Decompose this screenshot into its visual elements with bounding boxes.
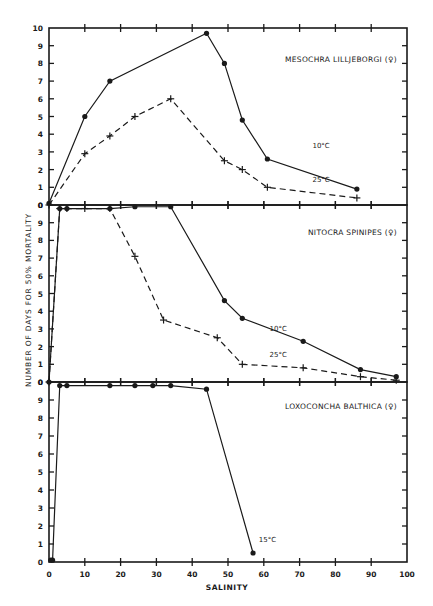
x-tick-label: 80 — [330, 570, 340, 579]
data-point-dot — [250, 550, 255, 555]
data-point-dot — [168, 383, 173, 388]
x-tick-label: 10 — [80, 570, 90, 579]
y-tick-label: 2 — [38, 522, 43, 531]
y-tick-label: 2 — [38, 166, 43, 175]
y-tick-label: 8 — [38, 414, 43, 423]
data-point-dot — [240, 117, 245, 122]
data-point-dot — [265, 156, 270, 161]
data-point-dot — [64, 383, 69, 388]
y-tick-label: 4 — [38, 486, 43, 495]
y-tick-label: 3 — [38, 504, 43, 513]
y-tick-label: 9 — [38, 396, 43, 405]
y-tick-label: 3 — [38, 148, 43, 157]
data-point-dot — [82, 114, 87, 119]
data-point-dot — [354, 186, 359, 191]
data-point-dot — [107, 383, 112, 388]
panel-title: NITOCRA SPINIPES (♀) — [308, 228, 397, 237]
x-tick-label: 20 — [115, 570, 125, 579]
data-point-dot — [107, 79, 112, 84]
data-point-dot — [222, 298, 227, 303]
x-tick-label: 70 — [294, 570, 304, 579]
x-tick-label: 30 — [151, 570, 161, 579]
panel-2: 01234567890NITOCRA SPINIPES (♀)10°C25°C — [38, 201, 407, 387]
panel-title: MESOCHRA LILLJEBORGI (♀) — [285, 55, 397, 64]
data-point-dot — [132, 383, 137, 388]
y-tick-label: 4 — [38, 130, 43, 139]
data-point-dot — [50, 558, 55, 563]
x-tick-label: 60 — [259, 570, 269, 579]
series-label: 15°C — [259, 536, 276, 544]
y-tick-label: 1 — [38, 183, 43, 192]
x-tick-label: 0 — [46, 570, 51, 579]
y-tick-label: 3 — [38, 325, 43, 334]
y-tick-label: 7 — [38, 432, 43, 441]
y-tick-label: 10 — [33, 24, 43, 33]
y-tick-label: 0 — [38, 558, 43, 567]
y-tick-label: 6 — [38, 95, 43, 104]
data-point-dot — [204, 31, 209, 36]
data-point-dot — [358, 367, 363, 372]
y-tick-label: 0 — [38, 378, 43, 387]
y-tick-label: 0 — [38, 201, 43, 210]
series-label: 10°C — [312, 142, 329, 150]
data-point-dot — [132, 204, 137, 209]
y-tick-label: 1 — [38, 540, 43, 549]
data-point-dot — [222, 61, 227, 66]
data-point-dot — [204, 387, 209, 392]
y-tick-label: 2 — [38, 343, 43, 352]
panel-1: 012345678910MESOCHRA LILLJEBORGI (♀)10°C… — [33, 24, 407, 210]
series-line — [49, 99, 357, 205]
x-tick-label: 90 — [366, 570, 376, 579]
data-point-dot — [168, 204, 173, 209]
y-tick-label: 8 — [38, 236, 43, 245]
mortality-salinity-figure: 012345678910MESOCHRA LILLJEBORGI (♀)10°C… — [0, 0, 433, 606]
series-label: 25°C — [312, 176, 329, 184]
panel-3: 01234567890LOXOCONCHA BALTHICA (♀)15°C — [38, 378, 407, 567]
x-axis-label: SALINITY — [206, 583, 248, 592]
y-tick-label: 5 — [38, 290, 43, 299]
series-line — [51, 386, 253, 561]
data-point-dot — [301, 339, 306, 344]
y-tick-label: 8 — [38, 59, 43, 68]
y-tick-label: 7 — [38, 254, 43, 263]
x-tick-label: 40 — [187, 570, 197, 579]
x-tick-label: 50 — [223, 570, 233, 579]
data-point-dot — [240, 316, 245, 321]
y-tick-label: 7 — [38, 77, 43, 86]
x-tick-label: 100 — [399, 570, 415, 579]
data-point-dot — [57, 383, 62, 388]
y-tick-label: 5 — [38, 468, 43, 477]
data-point-dot — [150, 383, 155, 388]
y-tick-label: 9 — [38, 219, 43, 228]
panel-title: LOXOCONCHA BALTHICA (♀) — [285, 402, 397, 411]
y-tick-label: 9 — [38, 42, 43, 51]
y-tick-label: 5 — [38, 113, 43, 122]
y-tick-label: 6 — [38, 450, 43, 459]
series-label: 10°C — [269, 325, 286, 333]
y-tick-label: 1 — [38, 360, 43, 369]
series-label: 25°C — [269, 351, 286, 359]
y-tick-label: 4 — [38, 307, 43, 316]
y-tick-label: 6 — [38, 272, 43, 281]
y-axis-label: NUMBER OF DAYS FOR 50% MORTALITY — [24, 213, 33, 387]
